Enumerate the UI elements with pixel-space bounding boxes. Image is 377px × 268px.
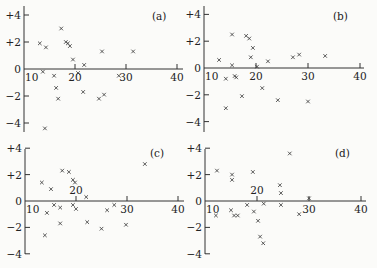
data-point-x-marker <box>105 208 109 212</box>
data-point-x-marker <box>224 106 228 110</box>
data-point-x-marker <box>279 191 283 195</box>
data-point-x-marker <box>306 100 310 104</box>
data-point-x-marker <box>236 214 240 218</box>
y-tick-label: +4 <box>187 142 203 154</box>
data-point-x-marker <box>249 55 253 59</box>
data-point-x-marker <box>64 40 68 44</box>
x-tick-label: 20 <box>68 71 81 83</box>
x-tick-label: 40 <box>354 203 367 215</box>
data-point-x-marker <box>52 74 56 78</box>
x-tick-label: 30 <box>301 70 314 82</box>
data-point-x-marker <box>276 98 280 102</box>
data-point-x-marker <box>112 203 116 207</box>
data-point-x-marker <box>217 58 221 62</box>
data-point-x-marker <box>52 203 56 207</box>
y-tick-label: 0 <box>194 62 201 74</box>
y-tick-label: −4 <box>187 248 203 260</box>
data-point-x-marker <box>260 86 264 90</box>
data-point-x-marker <box>54 86 58 90</box>
x-tick-label: 30 <box>120 203 133 215</box>
y-tick-label: −2 <box>187 221 202 233</box>
panel-b: +4+20−2−410203040(b) <box>186 6 367 132</box>
data-point-x-marker <box>38 42 42 46</box>
data-point-x-marker <box>279 203 283 207</box>
y-tick-label: −2 <box>186 89 201 101</box>
x-tick-label: 10 <box>25 71 38 83</box>
data-point-x-marker <box>234 76 238 80</box>
y-tick-label: +4 <box>6 9 22 21</box>
y-tick-label: +4 <box>186 8 202 20</box>
data-point-x-marker <box>143 162 147 166</box>
data-point-x-marker <box>240 94 244 98</box>
data-point-x-marker <box>59 27 63 31</box>
data-point-x-marker <box>100 227 104 231</box>
data-point-x-marker <box>43 127 47 131</box>
panel-d: +4+20−2−410203040(d) <box>187 142 368 260</box>
y-tick-label: −4 <box>186 116 202 128</box>
panel-label: (c) <box>150 147 164 159</box>
data-point-x-marker <box>71 178 75 182</box>
y-tick-label: +2 <box>187 169 202 181</box>
data-point-x-marker <box>45 211 49 215</box>
data-point-x-marker <box>58 206 62 210</box>
data-point-x-marker <box>100 50 104 54</box>
data-point-x-marker <box>131 50 135 54</box>
panel-c: +4+20−2−410203040(c) <box>7 142 185 260</box>
data-point-x-marker <box>60 169 64 173</box>
x-tick-label: 20 <box>249 70 262 82</box>
data-point-x-marker <box>66 42 70 46</box>
data-point-x-marker <box>323 54 327 58</box>
data-point-x-marker <box>67 170 71 174</box>
data-point-x-marker <box>102 93 106 97</box>
data-point-x-marker <box>230 178 234 182</box>
data-point-x-marker <box>41 70 45 74</box>
panel-label: (d) <box>335 147 350 159</box>
data-point-x-marker <box>252 210 256 214</box>
y-tick-label: +2 <box>6 36 21 48</box>
x-tick-label: 10 <box>26 203 39 215</box>
panel-label: (a) <box>152 10 166 22</box>
data-point-x-marker <box>124 223 128 227</box>
y-tick-label: −2 <box>6 90 21 102</box>
data-point-x-marker <box>262 202 266 206</box>
y-tick-label: +4 <box>7 142 23 154</box>
y-tick-label: +2 <box>7 169 22 181</box>
data-point-x-marker <box>40 181 44 185</box>
data-point-x-marker <box>49 187 53 191</box>
data-point-x-marker <box>56 97 60 101</box>
y-tick-label: −2 <box>7 221 22 233</box>
y-tick-label: 0 <box>14 63 21 75</box>
data-point-x-marker <box>232 214 236 218</box>
data-point-x-marker <box>261 241 265 245</box>
data-point-x-marker <box>71 58 75 62</box>
data-point-x-marker <box>297 212 301 216</box>
data-point-x-marker <box>251 46 255 50</box>
data-point-x-marker <box>71 203 75 207</box>
data-point-x-marker <box>247 37 251 41</box>
data-point-x-marker <box>229 208 233 212</box>
y-tick-label: −4 <box>6 117 22 129</box>
x-tick-label: 10 <box>206 203 219 215</box>
data-point-x-marker <box>82 63 86 67</box>
data-point-x-marker <box>278 183 282 187</box>
data-point-x-marker <box>215 169 219 173</box>
y-tick-label: −4 <box>7 248 23 260</box>
data-point-x-marker <box>266 60 270 64</box>
data-point-x-marker <box>84 195 88 199</box>
data-point-x-marker <box>230 64 234 68</box>
data-point-x-marker <box>288 152 292 156</box>
scatter-figure: +4+20−2−410203040(a) +4+20−2−410203040(b… <box>0 0 377 268</box>
data-point-x-marker <box>256 219 260 223</box>
y-tick-label: +2 <box>186 35 201 47</box>
y-tick-label: 0 <box>195 195 202 207</box>
x-tick-label: 20 <box>69 184 82 196</box>
x-tick-label: 20 <box>250 184 263 196</box>
y-tick-label: 0 <box>15 195 22 207</box>
data-point-x-marker <box>58 222 62 226</box>
data-point-x-marker <box>258 235 262 239</box>
x-tick-label: 40 <box>170 71 183 83</box>
data-point-x-marker <box>230 173 234 177</box>
data-point-x-marker <box>43 234 47 238</box>
x-tick-label: 30 <box>119 71 132 83</box>
data-point-x-marker <box>44 46 48 50</box>
